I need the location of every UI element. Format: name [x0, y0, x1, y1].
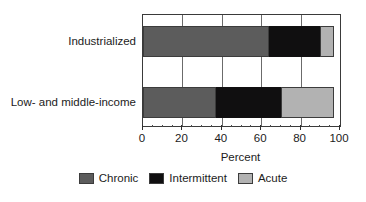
x-tick-0	[142, 125, 143, 130]
x-tick-minor-65	[270, 125, 271, 127]
x-tick-label-60: 60	[254, 132, 267, 145]
plot-area	[142, 14, 341, 127]
legend-label-chronic: Chronic	[99, 172, 139, 185]
x-tick-minor-30	[201, 125, 202, 127]
legend-label-intermittent: Intermittent	[169, 172, 227, 185]
x-tick-minor-55	[250, 125, 251, 127]
bar-segment-industrialized-intermittent	[269, 26, 320, 57]
x-tick-minor-85	[309, 125, 310, 127]
legend-swatch-acute	[238, 173, 253, 184]
x-tick-minor-35	[211, 125, 212, 127]
stacked-bar-chart: Industrialized Low- and middle-income 02…	[0, 0, 366, 202]
x-tick-label-40: 40	[214, 132, 227, 145]
x-tick-label-100: 100	[329, 132, 348, 145]
bar-segment-low-and-middle-income-acute	[281, 87, 334, 118]
bar-segment-industrialized-acute	[320, 26, 334, 57]
x-tick-minor-90	[319, 125, 320, 127]
x-axis-title: Percent	[142, 151, 339, 164]
x-tick-20	[181, 125, 182, 130]
legend: ChronicIntermittentAcute	[0, 172, 366, 185]
bar-segment-low-and-middle-income-chronic	[143, 87, 216, 118]
legend-label-acute: Acute	[258, 172, 287, 185]
x-axis: 020406080100	[142, 125, 339, 153]
x-tick-label-20: 20	[175, 132, 188, 145]
x-tick-100	[339, 125, 340, 130]
x-tick-minor-75	[290, 125, 291, 127]
x-tick-minor-70	[280, 125, 281, 127]
x-tick-label-80: 80	[293, 132, 306, 145]
legend-item-acute: Acute	[238, 172, 287, 185]
legend-swatch-intermittent	[149, 173, 164, 184]
x-tick-minor-95	[329, 125, 330, 127]
x-tick-60	[260, 125, 261, 130]
x-tick-minor-45	[231, 125, 232, 127]
x-tick-40	[221, 125, 222, 130]
category-label-low-and-middle-income: Low- and middle-income	[0, 96, 136, 108]
legend-item-chronic: Chronic	[79, 172, 139, 185]
x-tick-label-0: 0	[139, 132, 145, 145]
bar-segment-low-and-middle-income-intermittent	[216, 87, 281, 118]
legend-item-intermittent: Intermittent	[149, 172, 227, 185]
x-tick-minor-50	[241, 125, 242, 127]
legend-swatch-chronic	[79, 173, 94, 184]
category-label-industrialized: Industrialized	[0, 35, 136, 47]
x-tick-80	[300, 125, 301, 130]
x-tick-minor-10	[162, 125, 163, 127]
x-tick-minor-25	[191, 125, 192, 127]
x-tick-minor-5	[152, 125, 153, 127]
bar-segment-industrialized-chronic	[143, 26, 269, 57]
x-tick-minor-15	[172, 125, 173, 127]
